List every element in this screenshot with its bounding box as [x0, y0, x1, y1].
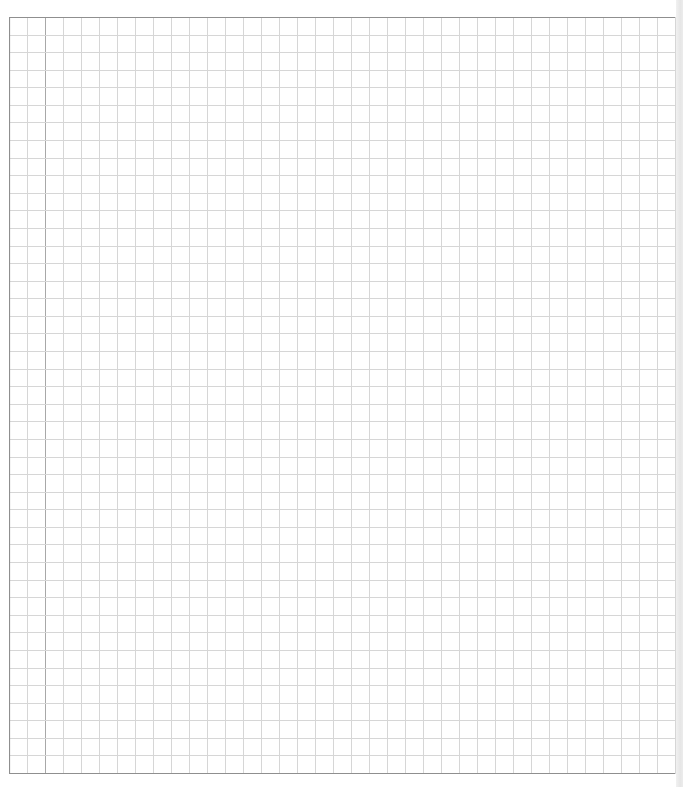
page-edge-shadow: [676, 0, 683, 787]
grid-lines: [9, 17, 676, 774]
graph-paper-sheet: [9, 17, 676, 773]
